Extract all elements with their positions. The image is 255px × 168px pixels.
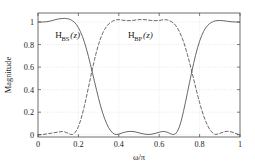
y-axis-tick-labels: 00.20.40.60.81 xyxy=(24,18,34,140)
x-axis-title: ω/π xyxy=(133,153,146,162)
x-tick-label: 1 xyxy=(238,140,242,149)
plot-area-background xyxy=(38,13,240,137)
chart-canvas: 00.20.40.60.81 00.20.40.60.81 ω/π Magnit… xyxy=(0,0,255,168)
x-axis-tick-labels: 00.20.40.60.81 xyxy=(36,140,242,149)
y-tick-label: 0.8 xyxy=(24,41,34,50)
y-tick-label: 0.2 xyxy=(24,108,34,117)
x-tick-label: 0.6 xyxy=(154,140,164,149)
figure-container: 00.20.40.60.81 00.20.40.60.81 ω/π Magnit… xyxy=(0,0,255,168)
x-tick-label: 0 xyxy=(36,140,40,149)
y-axis-title: Magnitude xyxy=(4,57,13,94)
bandstop-label-suffix: (z) xyxy=(70,30,80,40)
bandpass-label-subscript: BP xyxy=(134,35,142,42)
bandstop-label-subscript: BS xyxy=(62,35,70,42)
y-tick-label: 0 xyxy=(30,131,34,140)
y-tick-label: 1 xyxy=(30,18,34,27)
x-tick-label: 0.2 xyxy=(73,140,83,149)
x-tick-label: 0.4 xyxy=(114,140,124,149)
bandpass-label-suffix: (z) xyxy=(143,30,153,40)
y-tick-label: 0.4 xyxy=(24,86,34,95)
x-tick-label: 0.8 xyxy=(194,140,204,149)
y-tick-label: 0.6 xyxy=(24,63,34,72)
